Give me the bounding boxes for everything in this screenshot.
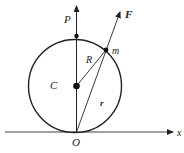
label-O: O	[72, 136, 80, 148]
force-line	[77, 12, 121, 132]
point-m	[104, 48, 109, 53]
label-P: P	[63, 13, 71, 25]
physics-diagram: P F m R C r O x	[0, 0, 184, 153]
label-m: m	[112, 45, 119, 56]
label-r: r	[100, 98, 104, 108]
label-R: R	[85, 54, 92, 65]
label-F: F	[124, 8, 133, 20]
point-center	[73, 83, 80, 90]
label-x: x	[176, 127, 182, 138]
point-top	[74, 34, 78, 38]
label-C: C	[50, 79, 58, 91]
